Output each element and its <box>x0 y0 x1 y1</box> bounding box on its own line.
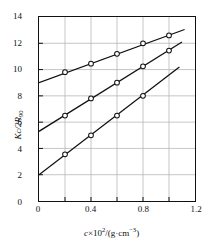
x-axis-title-close-paren: ) <box>136 228 139 238</box>
y-tick-label: 2 <box>0 171 22 180</box>
x-axis-title-multiplier: ×10 <box>88 228 102 238</box>
data-point-marker <box>115 80 120 85</box>
x-axis-title: c×102/(g·cm−3) <box>0 226 223 238</box>
x-tick-label: 1.2 <box>181 205 211 214</box>
y-tick-label: 8 <box>0 91 22 100</box>
chart-figure: Kc/2R90 02468101214 00.40.81.2 c×102/(g·… <box>0 0 223 249</box>
data-point-marker <box>89 133 94 138</box>
x-tick-label: 0.4 <box>76 205 106 214</box>
series-line <box>39 42 182 131</box>
data-point-marker <box>63 113 68 118</box>
y-axis-title-subscript: 90 <box>17 110 24 117</box>
data-point-marker <box>63 152 68 157</box>
plot-area <box>38 16 196 202</box>
x-axis-title-unit: /(g·cm <box>105 228 129 238</box>
y-tick-label: 6 <box>0 118 22 127</box>
y-tick-label: 14 <box>0 12 22 21</box>
data-series-layer <box>39 17 195 201</box>
y-tick-label: 0 <box>0 198 22 207</box>
x-tick-label: 0 <box>23 205 53 214</box>
data-point-marker <box>89 96 94 101</box>
series-line <box>39 67 179 175</box>
data-point-marker <box>141 64 146 69</box>
data-point-marker <box>167 33 172 38</box>
data-point-marker <box>167 48 172 53</box>
data-point-marker <box>141 93 146 98</box>
data-point-marker <box>63 70 68 75</box>
series-line <box>39 29 185 82</box>
y-tick-label: 4 <box>0 144 22 153</box>
x-tick-label: 0.8 <box>128 205 158 214</box>
data-point-marker <box>115 51 120 56</box>
y-tick-label: 12 <box>0 38 22 47</box>
data-point-marker <box>115 113 120 118</box>
y-tick-label: 10 <box>0 65 22 74</box>
data-point-marker <box>141 41 146 46</box>
data-point-marker <box>89 61 94 66</box>
